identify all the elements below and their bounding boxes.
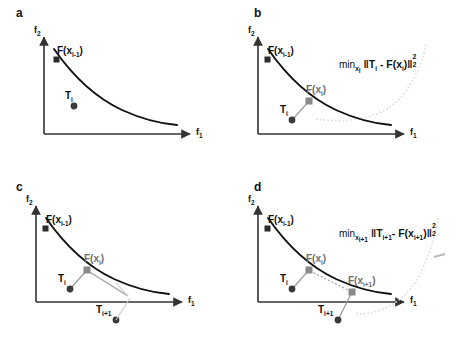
label-f-x-prev: F(xi-1)	[268, 215, 294, 228]
y-axis-label: f2	[34, 26, 41, 37]
label-f-x-prev: F(xi-1)	[57, 46, 83, 59]
label-t-i: Ti	[280, 105, 288, 118]
connector-t-next-to-f-next	[338, 292, 352, 320]
y-axis-label: f2	[26, 195, 33, 206]
pareto-front-curve	[54, 49, 177, 125]
label-f-x-i: F(xi)	[84, 254, 104, 267]
label-t-next: Ti+1	[318, 305, 333, 318]
marker-f-x-next	[349, 289, 356, 296]
connector-f-x-i-to-f-next	[310, 271, 350, 291]
marker-f-x-i	[306, 267, 313, 274]
figure-canvas: a	[0, 0, 475, 347]
objective-formula-d: minxi+1 ‖Ti+1- F(xi+1)‖22	[339, 226, 437, 244]
marker-t-i	[289, 286, 296, 293]
x-axis-label: f1	[410, 128, 417, 139]
label-f-x-prev: F(xi-1)	[268, 46, 294, 59]
plot-c	[0, 174, 237, 347]
marker-t-i	[67, 286, 74, 293]
marker-f-x-i	[306, 98, 313, 105]
label-f-x-next: F(xi+1)	[348, 276, 376, 289]
connector-f-x-i-to-t-next	[88, 271, 128, 296]
marker-t-i	[289, 117, 296, 124]
objective-formula-b: minxi ‖Ti - F(xi)‖22	[339, 57, 418, 75]
x-axis-label: f1	[410, 296, 417, 307]
x-axis-label: f1	[196, 128, 203, 139]
marker-t-next	[335, 317, 342, 324]
plot-d-svg	[238, 174, 475, 347]
panel-b: b	[238, 0, 475, 173]
label-t-i: Ti	[280, 274, 288, 287]
plot-c-svg	[0, 174, 237, 347]
panel-a: a	[0, 0, 237, 173]
label-f-x-prev: F(xi-1)	[46, 215, 72, 228]
label-t-i: Ti	[58, 274, 66, 287]
label-f-x-i: F(xi)	[306, 85, 326, 98]
plot-d	[238, 174, 475, 347]
plot-b-svg	[238, 0, 475, 173]
marker-t-i	[71, 103, 78, 110]
stray-arrow-icon	[434, 254, 445, 257]
marker-f-x-i	[84, 267, 91, 274]
panel-c: c	[0, 174, 237, 347]
label-t-next: Ti+1	[96, 305, 111, 318]
y-axis-label: f2	[248, 195, 255, 206]
label-f-x-i: F(xi)	[306, 254, 326, 267]
x-axis-label: f1	[188, 296, 195, 307]
panel-d: d	[238, 174, 475, 347]
plot-b	[238, 0, 475, 173]
y-axis-label: f2	[248, 26, 255, 37]
label-t-i: Ti	[65, 91, 73, 104]
